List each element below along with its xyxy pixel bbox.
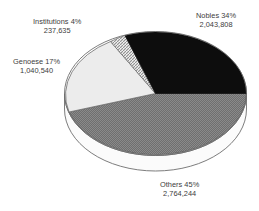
- pie-top-face: [65, 32, 247, 156]
- pie-label-nobles-name: Nobles 34%: [196, 11, 236, 20]
- pie-label-genoese: Genoese 17% 1,040,540: [13, 57, 60, 76]
- pie-label-others-name: Others 45%: [160, 180, 199, 189]
- pie-label-genoese-name: Genoese 17%: [13, 57, 60, 66]
- pie-label-institutions: Institutions 4% 237,635: [33, 17, 81, 36]
- pie-label-nobles-value: 2,043,808: [196, 20, 236, 29]
- pie-label-genoese-value: 1,040,540: [13, 66, 60, 75]
- pie-label-institutions-value: 237,635: [33, 26, 81, 35]
- pie-chart: Nobles 34% 2,043,808 Others 45% 2,764,24…: [0, 0, 259, 211]
- pie-label-others: Others 45% 2,764,244: [160, 180, 199, 199]
- pie-label-nobles: Nobles 34% 2,043,808: [196, 11, 236, 30]
- pie-label-others-value: 2,764,244: [160, 189, 199, 198]
- pie-label-institutions-name: Institutions 4%: [33, 17, 81, 26]
